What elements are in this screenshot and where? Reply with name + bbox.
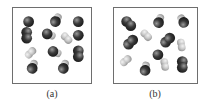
molecule-diagram-a: [13, 8, 91, 83]
molecule-light-pair: [139, 28, 153, 42]
molecule-diagram-b: [114, 8, 197, 83]
molecule-dark-pair: [21, 27, 32, 44]
panel-a-caption: (a): [37, 88, 67, 99]
molecule-dark-pair: [119, 14, 138, 33]
molecule-dark-with-light: [152, 12, 167, 29]
molecule-dark-with-light: [48, 11, 64, 29]
molecule-dark-with-light: [25, 58, 40, 75]
panel-a: [12, 7, 92, 84]
molecule-dark-pair: [177, 56, 188, 73]
molecule-dark-with-light: [46, 45, 63, 60]
molecule-light-pair: [118, 54, 133, 68]
panel-b-caption: (b): [140, 88, 170, 99]
molecule-light-pair: [59, 31, 73, 45]
molecule-dark-pair: [73, 46, 84, 63]
molecule-dark-single: [73, 16, 84, 27]
molecule-dark-with-light: [56, 58, 71, 75]
dark-atom: [21, 33, 32, 44]
molecule-dark-with-light: [175, 12, 191, 30]
panel-b: [113, 7, 198, 84]
molecule-dark-single: [73, 30, 84, 41]
dark-atom: [153, 49, 164, 60]
molecule-light-pair: [23, 46, 37, 60]
molecule-dark-with-light: [139, 61, 152, 77]
dark-atom: [73, 51, 84, 62]
molecule-light-pair: [176, 38, 186, 52]
dark-atom: [23, 16, 34, 27]
molecule-dark-single: [153, 49, 164, 60]
molecule-dark-pair: [158, 31, 177, 50]
molecule-dark-pair: [121, 32, 140, 51]
dark-atom: [73, 16, 84, 27]
molecule-dark-with-light: [40, 27, 57, 42]
dark-atom: [177, 62, 188, 73]
molecule-light-pair: [160, 58, 170, 72]
dark-atom: [73, 30, 84, 41]
molecule-dark-single: [23, 16, 34, 27]
